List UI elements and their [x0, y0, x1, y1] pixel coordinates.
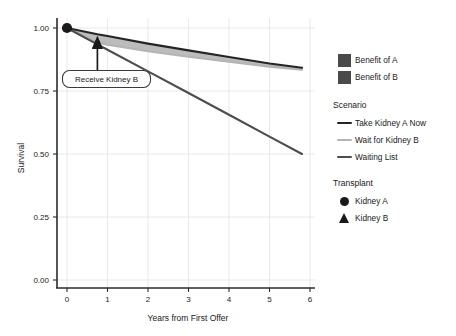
x-tick-label: 5 — [267, 295, 272, 304]
y-tick-label: 0.50 — [33, 150, 49, 159]
legend-spacer — [333, 166, 456, 178]
marker-kidney-a-circle — [62, 23, 72, 33]
legend-label-kidney-a: Kidney A — [355, 197, 388, 205]
y-axis-title: Survival — [16, 143, 26, 173]
y-tick-label: 0.25 — [33, 213, 49, 222]
x-tick-label: 0 — [65, 295, 70, 304]
x-tick-label: 2 — [146, 295, 151, 304]
annotation-label: Receive Kidney B — [75, 75, 138, 84]
y-tick-label: 0.00 — [33, 276, 49, 285]
benefit-a-swatch-icon — [333, 54, 355, 67]
legend-item-kidney-b[interactable]: Kidney B — [333, 210, 456, 226]
legend-label-wait-for-kidney-b: Wait for Kidney B — [355, 136, 419, 144]
kidney-b-triangle-icon — [333, 213, 355, 223]
legend-group-benefit: Benefit of A Benefit of B — [333, 52, 456, 85]
legend-item-kidney-a[interactable]: Kidney A — [333, 193, 456, 209]
benefit-b-swatch-icon — [333, 71, 355, 84]
y-tick-label: 0.75 — [33, 87, 49, 96]
x-tick-label: 3 — [186, 295, 191, 304]
x-tick-label: 1 — [105, 295, 110, 304]
legend-label-waiting-list: Waiting List — [355, 153, 398, 161]
legend-item-wait-for-kidney-b[interactable]: Wait for Kidney B — [333, 132, 456, 148]
legend-item-take-kidney-a-now[interactable]: Take Kidney A Now — [333, 115, 456, 131]
y-axis-tick-labels: 1.00 0.75 0.50 0.25 0.00 — [33, 24, 49, 285]
legend-item-benefit-of-a[interactable]: Benefit of A — [333, 52, 456, 68]
legend-label-benefit-of-b: Benefit of B — [355, 73, 398, 81]
legend-label-take-kidney-a-now: Take Kidney A Now — [355, 119, 426, 127]
x-axis-title: Years from First Offer — [148, 313, 229, 323]
vertical-gridlines — [67, 18, 310, 288]
legend-title-transplant: Transplant — [333, 178, 456, 188]
chart-legend: Benefit of A Benefit of B Scenario Take … — [333, 52, 456, 227]
legend-title-scenario: Scenario — [333, 100, 456, 110]
legend-item-benefit-of-b[interactable]: Benefit of B — [333, 69, 456, 85]
legend-label-kidney-b: Kidney B — [355, 214, 388, 222]
legend-spacer — [333, 86, 456, 100]
x-tick-label: 4 — [227, 295, 232, 304]
kidney-a-circle-icon — [333, 197, 355, 206]
legend-label-benefit-of-a: Benefit of A — [355, 56, 397, 64]
survival-chart-figure: Receive Kidney B 1.00 0.75 0.50 — [0, 0, 456, 336]
legend-item-waiting-list[interactable]: Waiting List — [333, 149, 456, 165]
legend-group-scenario: Scenario Take Kidney A Now Wait for Kidn… — [333, 100, 456, 165]
take-kidney-a-now-line-icon — [333, 122, 355, 124]
waiting-list-line-icon — [333, 156, 355, 158]
wait-for-kidney-b-line-icon — [333, 139, 355, 141]
y-tick-label: 1.00 — [33, 24, 49, 33]
legend-group-transplant: Transplant Kidney A Kidney B — [333, 178, 456, 226]
x-axis-tick-labels: 0 1 2 3 4 5 6 — [65, 295, 313, 304]
x-tick-label: 6 — [308, 295, 313, 304]
